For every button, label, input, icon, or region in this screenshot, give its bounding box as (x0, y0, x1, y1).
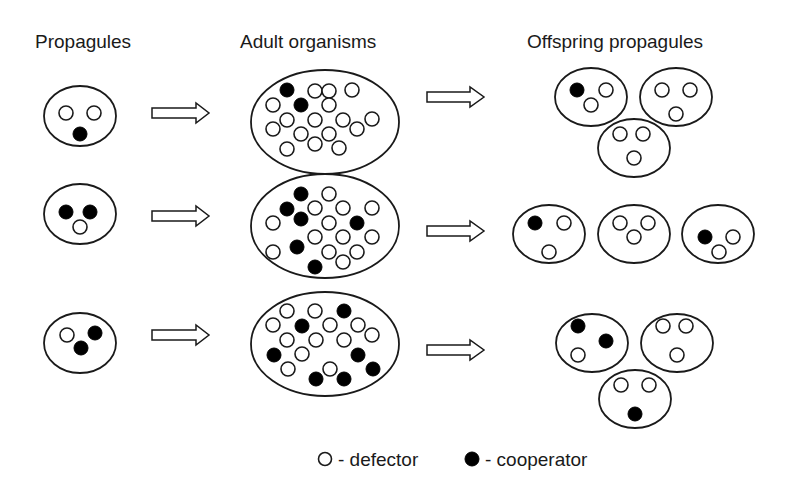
defector-icon (726, 230, 740, 244)
arrow-right-icon (152, 206, 209, 226)
defector-icon (60, 328, 74, 342)
propagule-3 (44, 313, 116, 373)
defector-icon (322, 84, 336, 98)
defector-icon (683, 83, 697, 97)
defector-icon (87, 106, 101, 120)
defector-legend-icon (319, 453, 332, 466)
legend: - defector - cooperator (319, 449, 589, 470)
adult-organism-2 (251, 174, 399, 278)
defector-icon (322, 216, 336, 230)
offspring-propagule (513, 205, 585, 263)
defector-icon (542, 245, 556, 259)
offspring-propagule (556, 314, 628, 372)
offspring-propagule (598, 119, 670, 177)
arrow-right-icon (427, 221, 484, 241)
cooperator-icon (366, 362, 380, 376)
cooperator-icon (280, 202, 294, 216)
defector-icon (350, 245, 364, 259)
defector-icon (613, 216, 627, 230)
defector-icon (266, 122, 280, 136)
defector-icon (295, 347, 309, 361)
defector-icon (669, 107, 683, 121)
offspring-propagule (599, 370, 671, 428)
propagule-2 (44, 184, 116, 244)
cooperator-icon (294, 212, 308, 226)
cooperator-icon (294, 98, 308, 112)
defector-icon (599, 83, 613, 97)
propagule-1 (44, 86, 116, 146)
adult-organism-1 (251, 70, 399, 174)
adult-organism-3 (251, 292, 399, 396)
defector-icon (350, 122, 364, 136)
cooperator-icon (295, 319, 309, 333)
cooperator-icon (528, 216, 542, 230)
defector-icon (641, 216, 655, 230)
row-2 (44, 174, 754, 278)
defector-icon (365, 201, 379, 215)
defector-icon (336, 113, 350, 127)
defector-icon (73, 220, 87, 234)
cooperator-icon (628, 407, 642, 421)
defector-icon (712, 245, 726, 259)
cooperator-icon (350, 216, 364, 230)
defector-icon (365, 328, 379, 342)
offspring-propagule (640, 68, 712, 126)
cooperator-icon (83, 205, 97, 219)
defector-icon (670, 348, 684, 362)
defector-icon (266, 318, 280, 332)
defector-icon (323, 318, 337, 332)
defector-icon (627, 230, 641, 244)
defector-icon (294, 127, 308, 141)
row-3 (44, 292, 713, 428)
arrow-right-icon (427, 340, 484, 360)
defector-icon (322, 127, 336, 141)
cooperator-icon (698, 230, 712, 244)
defector-icon (336, 255, 350, 269)
defector-icon (309, 333, 323, 347)
defector-icon (627, 151, 641, 165)
defector-icon (336, 201, 350, 215)
cooperator-icon (294, 187, 308, 201)
defector-icon (281, 362, 295, 376)
offspring-propagule (555, 68, 627, 126)
defector-icon (266, 98, 280, 112)
defector-icon (59, 106, 73, 120)
cooperator-icon (308, 260, 322, 274)
cooperator-icon (309, 372, 323, 386)
cooperator-icon (290, 240, 304, 254)
defector-icon (280, 304, 294, 318)
arrow-right-icon (152, 325, 209, 345)
defector-icon (280, 142, 294, 156)
defector-icon (322, 98, 336, 112)
cooperator-icon (267, 348, 281, 362)
defector-icon (332, 141, 346, 155)
defector-icon (308, 113, 322, 127)
defector-icon (365, 112, 379, 126)
life-cycle-diagram: Propagules Adult organisms Offspring pro… (0, 0, 785, 498)
defector-icon (656, 319, 670, 333)
cooperator-icon (88, 326, 102, 340)
offspring-group-1 (555, 68, 712, 177)
defector-icon (642, 378, 656, 392)
cooperator-icon (59, 205, 73, 219)
offspring-propagule (682, 205, 754, 263)
offspring-group-3 (556, 314, 713, 428)
cooperator-icon (571, 319, 585, 333)
cooperator-icon (337, 304, 351, 318)
defector-icon (336, 230, 350, 244)
defector-icon (280, 333, 294, 347)
defector-icon (557, 216, 571, 230)
defector-icon (308, 84, 322, 98)
defector-icon (679, 319, 693, 333)
defector-icon (308, 304, 322, 318)
title-propagules: Propagules (35, 31, 131, 52)
cooperator-icon (280, 83, 294, 97)
defector-icon (351, 318, 365, 332)
defector-icon (365, 230, 379, 244)
defector-icon (308, 230, 322, 244)
defector-icon (613, 127, 627, 141)
defector-icon (322, 245, 336, 259)
defector-icon (345, 83, 359, 97)
defector-icon (266, 245, 280, 259)
defector-icon (266, 216, 280, 230)
